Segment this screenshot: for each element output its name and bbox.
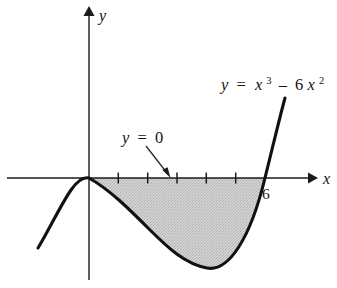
y-axis-label: y bbox=[97, 7, 107, 25]
boundary-label-y: y bbox=[120, 128, 130, 147]
graph-canvas: y x 6 y = 0 y = x 3 – 6 x 2 bbox=[0, 0, 337, 288]
y-zero-pointer-line bbox=[146, 146, 167, 173]
equation-lhs: y bbox=[219, 75, 229, 94]
equation-term2-coefficient: 6 bbox=[295, 75, 303, 94]
x-axis-label: x bbox=[322, 170, 330, 187]
equation-term2-base: x bbox=[306, 75, 315, 94]
equation-term2-exponent: 2 bbox=[319, 75, 324, 86]
boundary-line-label: y = 0 bbox=[120, 128, 163, 147]
equation-equals-sign: = bbox=[236, 75, 245, 94]
x-axis-arrowhead bbox=[308, 173, 318, 184]
boundary-label-value: 0 bbox=[155, 128, 163, 147]
curve-equation-label: y = x 3 – 6 x 2 bbox=[219, 69, 324, 94]
equation-minus-sign: – bbox=[278, 75, 288, 94]
figure-container: y x 6 y = 0 y = x 3 – 6 x 2 bbox=[0, 0, 337, 288]
equation-term1-base: x bbox=[254, 75, 263, 94]
boundary-label-equals: = bbox=[137, 128, 146, 147]
y-axis-arrowhead bbox=[84, 6, 95, 16]
x-intercept-label: 6 bbox=[262, 185, 270, 202]
equation-term1-exponent: 3 bbox=[266, 75, 271, 86]
